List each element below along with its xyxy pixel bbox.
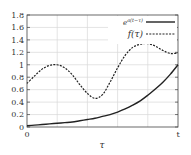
y-tick-label: 1.6: [11, 23, 24, 32]
legend: ea(t−τ) f(τ): [108, 16, 177, 44]
legend-label-f: f(τ): [127, 29, 144, 39]
x-axis-label: τ: [100, 140, 106, 150]
series-f-tau: [27, 43, 178, 98]
y-tick-label: 1.2: [11, 48, 24, 57]
y-tick-label: 1: [19, 61, 24, 70]
y-tick-label: 0.8: [11, 73, 24, 82]
y-tick-label: 0: [19, 123, 24, 132]
y-tick-label: 0.4: [11, 98, 24, 107]
y-tick-label: 0.6: [11, 85, 24, 94]
chart: 00.20.40.60.811.21.41.61.8 ea(t−τ) f(τ) …: [0, 0, 191, 155]
y-tick-label: 1.8: [11, 11, 24, 20]
y-tick-label: 0.2: [11, 110, 24, 119]
x-tick-end: t: [176, 130, 180, 139]
x-tick-start: 0: [24, 130, 29, 139]
y-tick-label: 1.4: [11, 36, 24, 45]
